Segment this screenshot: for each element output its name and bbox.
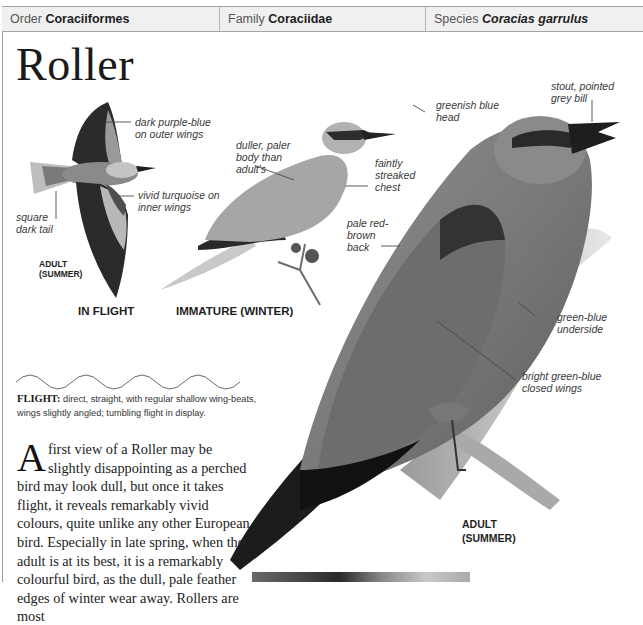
caption-line: (SUMMER) <box>39 269 82 279</box>
label-dark-purple-blue-outer-wings: dark purple-blue on outer wings <box>135 116 211 140</box>
label-line: square <box>16 211 53 223</box>
label-line: body than <box>236 151 290 163</box>
label-vivid-turquoise-inner-wings: vivid turquoise on inner wings <box>138 189 220 213</box>
species-cell: Species Coracias garrulus <box>426 7 643 31</box>
species-label: Species <box>434 12 478 26</box>
label-line: dark tail <box>16 223 53 235</box>
label-line: pale red- <box>347 217 388 229</box>
label-greenish-blue-head: greenish blue head <box>436 99 499 123</box>
label-line: head <box>436 111 499 123</box>
description-paragraph: Afirst view of a Roller may be slightly … <box>17 440 252 625</box>
family-label: Family <box>228 12 265 26</box>
label-line: on outer wings <box>135 128 211 140</box>
label-line: closed wings <box>522 382 601 394</box>
label-line: chest <box>375 181 415 193</box>
flight-description: FLIGHT: direct, straight, with regular s… <box>17 392 272 420</box>
species-value: Coracias garrulus <box>482 12 588 26</box>
label-line: back <box>347 241 388 253</box>
in-flight-age-caption: ADULT (SUMMER) <box>39 259 82 279</box>
in-flight-caption: IN FLIGHT <box>78 305 134 317</box>
page-title: Roller <box>16 38 134 91</box>
label-line: streaked <box>375 169 415 181</box>
label-stout-pointed-grey-bill: stout, pointed grey bill <box>551 80 614 104</box>
family-cell: Family Coraciidae <box>220 7 426 31</box>
label-line: vivid turquoise on <box>138 189 220 201</box>
label-line: stout, pointed <box>551 80 614 92</box>
taxonomy-header: Order Coraciiformes Family Coraciidae Sp… <box>2 6 643 32</box>
family-value: Coraciidae <box>268 12 332 26</box>
label-line: bright green-blue <box>522 370 601 382</box>
label-line: underside <box>557 323 607 335</box>
immature-caption: IMMATURE (WINTER) <box>176 305 293 317</box>
caption-line: (SUMMER) <box>462 531 516 545</box>
label-green-blue-underside: green-blue underside <box>557 311 607 335</box>
label-faintly-streaked-chest: faintly streaked chest <box>375 157 415 193</box>
caption-line: ADULT <box>462 517 516 531</box>
drop-cap: A <box>17 442 46 474</box>
caption-line: ADULT <box>39 259 82 269</box>
order-cell: Order Coraciiformes <box>2 7 220 31</box>
label-line: duller, paler <box>236 139 290 151</box>
flight-label: FLIGHT: <box>17 393 61 404</box>
label-line: inner wings <box>138 201 220 213</box>
label-line: dark purple-blue <box>135 116 211 128</box>
label-duller-paler-body: duller, paler body than adult's <box>236 139 290 175</box>
label-line: brown <box>347 229 388 241</box>
label-pale-red-brown-back: pale red- brown back <box>347 217 388 253</box>
habitat-photo <box>252 572 470 582</box>
label-line: green-blue <box>557 311 607 323</box>
label-bright-green-blue-closed-wings: bright green-blue closed wings <box>522 370 601 394</box>
label-line: adult's <box>236 163 290 175</box>
label-line: faintly <box>375 157 415 169</box>
page-left-border <box>2 6 3 582</box>
label-line: greenish blue <box>436 99 499 111</box>
label-square-dark-tail: square dark tail <box>16 211 53 235</box>
adult-caption: ADULT (SUMMER) <box>462 517 516 545</box>
flight-pattern-wave-icon <box>16 370 242 386</box>
order-value: Coraciiformes <box>45 12 129 26</box>
description-text: first view of a Roller may be slightly d… <box>17 441 250 624</box>
order-label: Order <box>10 12 42 26</box>
label-line: grey bill <box>551 92 614 104</box>
